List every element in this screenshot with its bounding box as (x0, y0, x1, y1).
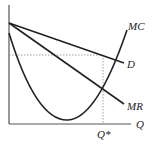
mc-label: MC (127, 20, 145, 32)
d-label: D (126, 58, 135, 70)
q-axis-label: Q (136, 118, 144, 130)
mr-label: MR (126, 100, 143, 112)
demand-curve (9, 23, 124, 63)
q-star-label: Q* (97, 128, 111, 140)
marginal-revenue-curve (9, 23, 124, 104)
monopoly-diagram: MC D MR Q Q* (0, 0, 154, 145)
